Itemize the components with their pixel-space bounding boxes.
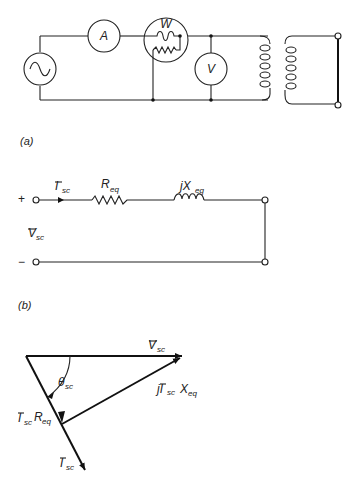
- ac-source-icon: [24, 53, 56, 85]
- svg-text:sc: sc: [36, 233, 44, 242]
- terminal-minus: [33, 259, 39, 265]
- transformer-secondary-winding-icon: [285, 33, 341, 108]
- transformer-primary-winding-icon: [260, 36, 270, 100]
- plus-sign: +: [18, 192, 25, 206]
- junction-dot: [151, 98, 155, 102]
- svg-text:V: V: [207, 62, 216, 76]
- svg-text:sc: sc: [167, 388, 175, 397]
- resistor-req-icon: [92, 196, 130, 204]
- caption-a: (a): [20, 135, 34, 147]
- svg-text:sc: sc: [24, 418, 32, 427]
- terminal: [335, 102, 341, 108]
- test-circuit: A W V: [24, 17, 341, 108]
- svg-text:sc: sc: [157, 345, 165, 354]
- svg-text:sc: sc: [65, 382, 73, 391]
- svg-text:eq: eq: [195, 186, 204, 195]
- terminal: [262, 197, 268, 203]
- terminal: [335, 33, 341, 39]
- svg-text:V: V: [148, 338, 157, 352]
- terminal: [262, 259, 268, 265]
- svg-text:eq: eq: [110, 185, 119, 194]
- voltmeter: V: [195, 53, 227, 85]
- junction-dot: [209, 98, 213, 102]
- equivalent-circuit: + I sc R eq jX eq − V sc: [18, 177, 268, 269]
- minus-sign: −: [18, 255, 25, 269]
- svg-text:A: A: [99, 29, 108, 43]
- caption-b: (b): [18, 299, 32, 311]
- short-circuit-test-figure: A W V: [0, 0, 353, 498]
- svg-text:sc: sc: [62, 186, 70, 195]
- current-arrow-icon: [58, 197, 64, 203]
- wattmeter: W: [144, 17, 188, 100]
- svg-text:θ: θ: [58, 375, 65, 389]
- phasor-diagram: V sc θ sc jI sc X eq I sc R eq I sc: [18, 338, 197, 472]
- svg-text:I: I: [55, 179, 59, 193]
- svg-text:R: R: [101, 177, 110, 191]
- terminal-plus: [33, 197, 39, 203]
- svg-text:jX: jX: [178, 179, 192, 193]
- svg-text:eq: eq: [188, 389, 197, 398]
- svg-text:eq: eq: [42, 417, 51, 426]
- svg-text:sc: sc: [66, 463, 74, 472]
- svg-text:W: W: [160, 17, 173, 31]
- ammeter: A: [88, 20, 120, 52]
